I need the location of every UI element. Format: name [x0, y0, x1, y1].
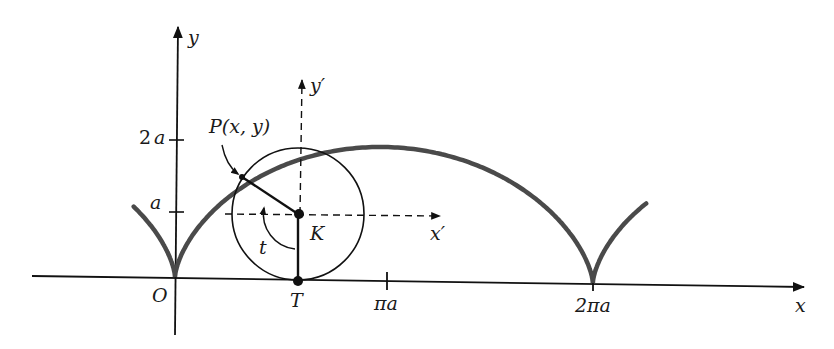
point-T-label: T: [290, 289, 304, 311]
x-axis: [32, 276, 804, 287]
angle-t-label: t: [259, 236, 267, 258]
point-K: [294, 209, 304, 219]
y-prime-label: y′: [309, 74, 326, 96]
point-T: [293, 276, 303, 286]
pointer-arrow-P: [222, 145, 238, 174]
y-tick-label-2a-a: a: [154, 126, 165, 148]
y-axis: [175, 27, 178, 335]
radius-KP: [242, 177, 298, 214]
x-prime-axis: [225, 214, 440, 216]
cycloid-diagram: y x O a 2a πa 2πa x′ y′ P(x, y) K T t: [0, 0, 834, 349]
y-prime-axis: [300, 80, 302, 214]
point-K-label: K: [309, 222, 326, 244]
x-axis-label: x: [795, 294, 806, 316]
point-P: [239, 174, 245, 180]
x-tick-label-pia: πa: [373, 292, 398, 314]
origin-label: O: [152, 284, 168, 306]
y-tick-label-a: a: [150, 191, 161, 213]
cycloid-curve: [134, 147, 647, 283]
y-tick-label-2a: 2a: [139, 126, 165, 148]
x-prime-label: x′: [430, 222, 446, 244]
y-axis-label: y: [187, 26, 199, 48]
x-tick-label-2pia: 2πa: [574, 294, 611, 316]
point-P-label: P(x, y): [208, 115, 270, 137]
